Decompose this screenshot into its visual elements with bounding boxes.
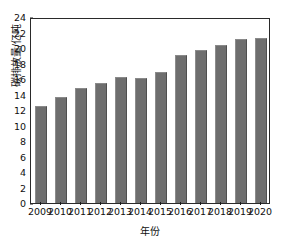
x-tick-mark [240, 202, 241, 205]
y-tick-label: 24 [14, 13, 26, 23]
x-tick-mark [180, 202, 181, 205]
y-tick-label: 8 [20, 137, 26, 147]
bar [195, 50, 207, 203]
bar [75, 88, 87, 203]
bar [255, 38, 267, 203]
x-tick-mark [80, 202, 81, 205]
y-tick-label: 6 [20, 153, 26, 163]
x-tick-mark [120, 202, 121, 205]
bar [235, 39, 247, 203]
y-tick-label: 0 [20, 199, 26, 209]
x-axis-title: 年份 [30, 226, 270, 238]
x-tick-mark [200, 202, 201, 205]
x-tick-label: 2020 [248, 206, 272, 218]
y-tick-label: 16 [14, 75, 26, 85]
bar-chart: 碳排放量/亿吨 024681012141618202224 2009201020… [0, 0, 282, 247]
y-tick-label: 22 [14, 29, 26, 39]
plot-area [30, 18, 270, 204]
x-tick-mark [220, 202, 221, 205]
x-tick-mark [260, 202, 261, 205]
x-tick-mark [40, 202, 41, 205]
y-tick-label: 12 [14, 106, 26, 116]
y-tick-label: 14 [14, 91, 26, 101]
y-tick-label: 20 [14, 44, 26, 54]
x-tick-mark [60, 202, 61, 205]
bar [55, 97, 67, 203]
bars-layer [31, 19, 269, 203]
x-tick-mark [140, 202, 141, 205]
bar [95, 83, 107, 203]
bar [155, 72, 167, 203]
y-tick-label: 2 [20, 184, 26, 194]
bar [175, 55, 187, 203]
bar [35, 106, 47, 203]
y-axis-tick-labels: 024681012141618202224 [4, 18, 30, 204]
x-tick-mark [100, 202, 101, 205]
x-tick-mark [160, 202, 161, 205]
y-tick-label: 4 [20, 168, 26, 178]
x-axis-tick-labels: 2009201020112012201320142015201620172018… [30, 206, 270, 220]
bar [115, 77, 127, 203]
y-tick-label: 10 [14, 122, 26, 132]
bar [135, 78, 147, 203]
bar [215, 45, 227, 203]
y-tick-label: 18 [14, 60, 26, 70]
